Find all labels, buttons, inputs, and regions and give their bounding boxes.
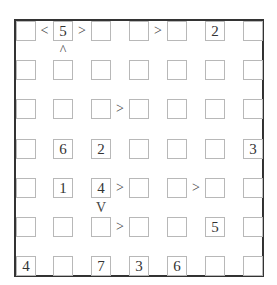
grid-cell-r2-c6[interactable]	[243, 99, 263, 119]
grid-cell-r6-c5[interactable]	[205, 256, 225, 276]
grid-cell-r2-c4[interactable]	[167, 99, 187, 119]
greater-than-icon: >	[151, 24, 165, 38]
grid-cell-r1-c6[interactable]	[243, 60, 263, 80]
grid-cell-r4-c6[interactable]	[243, 178, 263, 198]
less-than-icon: <	[38, 24, 52, 38]
grid-cell-r6-c2[interactable]: 7	[91, 256, 111, 276]
grid-cell-r1-c2[interactable]	[91, 60, 111, 80]
grid-cell-r6-c3[interactable]: 3	[129, 256, 149, 276]
grid-cell-r0-c6[interactable]	[243, 21, 263, 41]
grid-cell-r5-c5[interactable]: 5	[205, 217, 225, 237]
grid-cell-r4-c3[interactable]	[129, 178, 149, 198]
grid-cell-r4-c0[interactable]	[16, 178, 36, 198]
grid-cell-r2-c5[interactable]	[205, 99, 225, 119]
grid-cell-r1-c4[interactable]	[167, 60, 187, 80]
grid-cell-r3-c1[interactable]: 6	[53, 139, 73, 159]
greater-than-down-icon: V	[94, 201, 108, 215]
grid-cell-r6-c0[interactable]: 4	[16, 256, 36, 276]
less-than-up-icon: ^	[56, 44, 70, 58]
grid-cell-r3-c5[interactable]	[205, 139, 225, 159]
grid-cell-r6-c1[interactable]	[53, 256, 73, 276]
grid-cell-r3-c2[interactable]: 2	[91, 139, 111, 159]
grid-cell-r5-c1[interactable]	[53, 217, 73, 237]
greater-than-icon: >	[189, 181, 203, 195]
greater-than-icon: >	[113, 181, 127, 195]
grid-cell-r1-c0[interactable]	[16, 60, 36, 80]
grid-cell-r0-c1[interactable]: 5	[53, 21, 73, 41]
grid-cell-r2-c3[interactable]	[129, 99, 149, 119]
grid-cell-r5-c3[interactable]	[129, 217, 149, 237]
grid-cell-r0-c0[interactable]	[16, 21, 36, 41]
grid-cell-r1-c5[interactable]	[205, 60, 225, 80]
greater-than-icon: >	[113, 220, 127, 234]
grid-cell-r3-c4[interactable]	[167, 139, 187, 159]
grid-cell-r5-c0[interactable]	[16, 217, 36, 237]
grid-cell-r0-c3[interactable]	[129, 21, 149, 41]
grid-cell-r4-c4[interactable]	[167, 178, 187, 198]
grid-cell-r5-c6[interactable]	[243, 217, 263, 237]
greater-than-icon: >	[113, 102, 127, 116]
grid-cell-r3-c0[interactable]	[16, 139, 36, 159]
grid-cell-r4-c1[interactable]: 1	[53, 178, 73, 198]
grid-cell-r1-c1[interactable]	[53, 60, 73, 80]
grid-cell-r6-c6[interactable]	[243, 256, 263, 276]
grid-cell-r0-c4[interactable]	[167, 21, 187, 41]
greater-than-icon: >	[75, 24, 89, 38]
grid-cell-r5-c2[interactable]	[91, 217, 111, 237]
grid-cell-r0-c5[interactable]: 2	[205, 21, 225, 41]
grid-cell-r2-c2[interactable]	[91, 99, 111, 119]
grid-cell-r4-c5[interactable]	[205, 178, 225, 198]
grid-cell-r4-c2[interactable]: 4	[91, 178, 111, 198]
grid-cell-r0-c2[interactable]	[91, 21, 111, 41]
grid-cell-r1-c3[interactable]	[129, 60, 149, 80]
grid-cell-r5-c4[interactable]	[167, 217, 187, 237]
grid-cell-r2-c0[interactable]	[16, 99, 36, 119]
grid-cell-r3-c6[interactable]: 3	[243, 139, 263, 159]
grid-cell-r6-c4[interactable]: 6	[167, 256, 187, 276]
grid-cell-r3-c3[interactable]	[129, 139, 149, 159]
grid-cell-r2-c1[interactable]	[53, 99, 73, 119]
